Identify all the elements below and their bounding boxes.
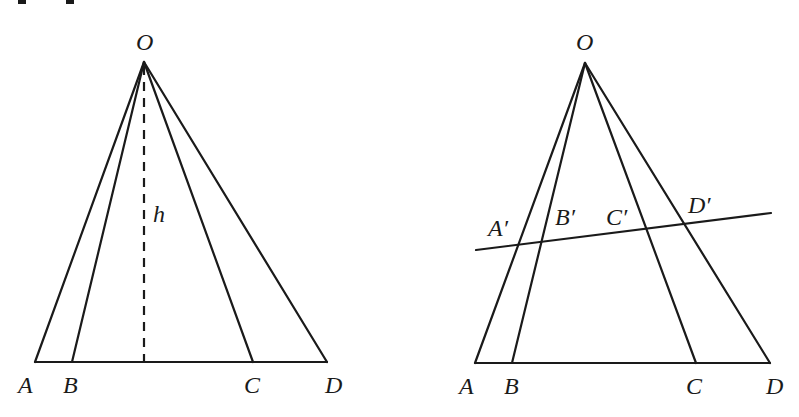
left-label-C: C — [244, 372, 261, 398]
right-figure: O A′ B′ C′ D′ A B C D — [457, 29, 783, 399]
right-label-C: C — [686, 373, 703, 399]
right-label-D-prime: D′ — [687, 192, 711, 218]
right-label-B-prime: B′ — [555, 204, 576, 230]
left-label-B: B — [63, 372, 78, 398]
left-label-h: h — [153, 201, 165, 227]
left-label-D: D — [324, 372, 342, 398]
left-ray-OA — [35, 62, 144, 362]
left-label-O: O — [136, 29, 153, 55]
right-label-A-prime: A′ — [486, 215, 509, 241]
cut-off-header-text — [18, 0, 74, 4]
left-label-A: A — [16, 372, 33, 398]
right-label-A: A — [457, 373, 474, 399]
left-ray-OB — [72, 62, 144, 362]
right-label-C-prime: C′ — [606, 204, 628, 230]
right-label-B: B — [504, 373, 519, 399]
cross-ratio-diagram: O h A B C D O A′ B′ C′ D′ A B C D — [0, 0, 799, 417]
right-label-O: O — [576, 29, 593, 55]
left-figure: O h A B C D — [16, 29, 342, 398]
right-label-D: D — [765, 373, 783, 399]
right-ray-OC — [585, 63, 696, 363]
